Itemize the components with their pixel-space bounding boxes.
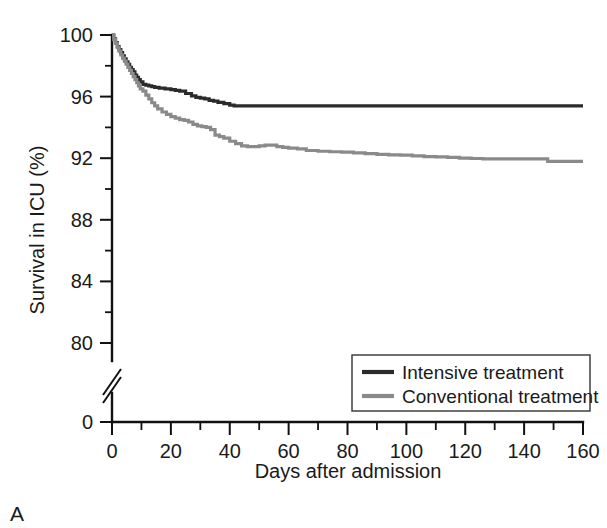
- series-line-intensive-treatment: [112, 35, 583, 106]
- y-tick-label: 84: [71, 270, 93, 292]
- panel-letter: A: [10, 502, 24, 525]
- legend-label-1: Intensive treatment: [402, 362, 564, 383]
- legend-label-2: Conventional treatment: [402, 386, 599, 407]
- y-tick-label: 88: [71, 209, 93, 231]
- x-tick-label: 160: [566, 440, 599, 462]
- y-axis-title: Survival in ICU (%): [26, 146, 48, 315]
- x-tick-label: 0: [106, 440, 117, 462]
- series-line-conventional-treatment: [112, 35, 583, 161]
- x-tick-label: 140: [507, 440, 540, 462]
- x-tick-label: 120: [449, 440, 482, 462]
- y-tick-label: 100: [60, 24, 93, 46]
- x-tick-label: 100: [390, 440, 423, 462]
- series-group: [112, 35, 583, 161]
- x-axis-title: Days after admission: [255, 460, 442, 482]
- x-tick-label: 20: [160, 440, 182, 462]
- y-tick-label: 0: [82, 411, 93, 433]
- y-tick-label: 80: [71, 332, 93, 354]
- y-tick-label: 92: [71, 147, 93, 169]
- x-tick-label: 40: [219, 440, 241, 462]
- survival-chart: Survival in ICU (%) Days after admission…: [0, 0, 607, 528]
- x-tick-label: 60: [278, 440, 300, 462]
- figure-panel-a: Survival in ICU (%) Days after admission…: [0, 0, 607, 528]
- y-tick-label: 96: [71, 86, 93, 108]
- legend-group: Intensive treatmentConventional treatmen…: [352, 355, 599, 411]
- x-tick-label: 80: [336, 440, 358, 462]
